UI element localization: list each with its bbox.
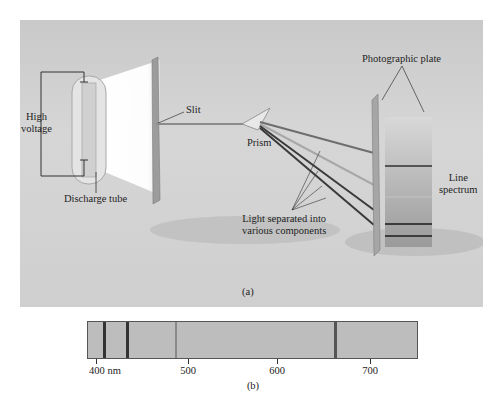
tick-label-400: 400 nm: [89, 365, 121, 376]
caption-a: (a): [242, 286, 254, 298]
label-light-separated-line1: Light separated into: [242, 213, 326, 225]
spectral-line-656: [334, 322, 337, 358]
label-line: Line: [439, 172, 478, 184]
label-light-separated: Light separated into various components: [242, 213, 326, 237]
label-line-spectrum: Line spectrum: [439, 172, 478, 196]
spectrum-bar: [87, 321, 418, 359]
label-discharge-tube: Discharge tube: [64, 193, 127, 205]
label-photographic-plate: Photographic plate: [362, 53, 441, 65]
tick-label-700: 700: [362, 365, 378, 376]
tick-500: [188, 359, 189, 364]
spectral-line-486: [175, 322, 177, 358]
tick-700: [370, 359, 371, 364]
tick-label-500: 500: [180, 365, 196, 376]
label-prism: Prism: [247, 137, 272, 149]
tick-400: [96, 359, 97, 364]
label-voltage: voltage: [21, 123, 52, 135]
label-light-separated-line2: various components: [242, 225, 326, 237]
line-spectrum-plate: [385, 117, 432, 247]
label-high-voltage: High voltage: [21, 111, 52, 135]
label-spectrum: spectrum: [439, 184, 478, 196]
caption-b: (b): [247, 380, 259, 391]
tick-600: [277, 359, 278, 364]
spectral-line-434: [126, 322, 129, 358]
spectral-line-410: [103, 322, 106, 358]
label-slit: Slit: [186, 104, 201, 116]
label-high: High: [21, 111, 52, 123]
panel-a-apparatus: High voltage Discharge tube Slit Prism P…: [20, 20, 483, 307]
tick-label-600: 600: [269, 365, 285, 376]
